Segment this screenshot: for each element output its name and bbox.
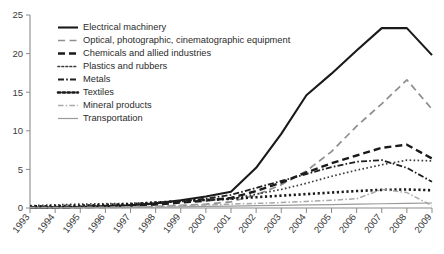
chart-canvas: 0510152025 19931994199519961997199819992… — [0, 0, 444, 254]
legend-item: Electrical machinery — [58, 22, 167, 32]
y-tick-label: 5 — [18, 164, 23, 175]
x-tick-label: 2000 — [186, 211, 208, 234]
x-tick-label: 2004 — [286, 211, 308, 234]
legend-label: Chemicals and allied industries — [83, 48, 212, 58]
x-tick-label: 2009 — [412, 211, 434, 234]
x-tick-label: 2007 — [362, 211, 384, 234]
legend-label: Optical, photographic, cinematographic e… — [83, 35, 291, 45]
x-tick-label: 2002 — [236, 211, 258, 234]
series-line-optical-photographic-cinematographic-equipment — [30, 80, 432, 208]
legend-item: Transportation — [58, 113, 143, 123]
x-axis: 1993199419951996199719981999200020012002… — [10, 208, 434, 235]
x-tick-label: 1996 — [85, 211, 107, 234]
legend-item: Textiles — [58, 87, 114, 97]
legend-item: Metals — [58, 74, 111, 84]
x-tick-label: 2008 — [387, 211, 409, 234]
legend-item: Plastics and rubbers — [58, 61, 168, 71]
legend-label: Plastics and rubbers — [83, 61, 168, 71]
y-axis: 0510152025 — [12, 9, 30, 213]
legend-label: Mineral products — [83, 100, 152, 110]
legend-item: Mineral products — [58, 100, 152, 110]
x-tick-label: 1993 — [10, 211, 32, 234]
x-tick-label: 2001 — [211, 211, 233, 234]
y-tick-label: 20 — [12, 48, 23, 59]
x-tick-label: 1995 — [60, 211, 82, 234]
x-tick-label: 1994 — [35, 211, 57, 234]
y-tick-label: 15 — [12, 87, 23, 98]
y-tick-label: 10 — [12, 125, 23, 136]
x-tick-label: 1999 — [161, 211, 183, 234]
series-line-plastics-and-rubbers — [30, 160, 432, 206]
legend-item: Optical, photographic, cinematographic e… — [58, 35, 291, 45]
y-tick-label: 25 — [12, 9, 23, 20]
x-tick-label: 1998 — [136, 211, 158, 234]
legend-label: Transportation — [83, 113, 143, 123]
line-chart: 0510152025 19931994199519961997199819992… — [0, 0, 444, 254]
chart-legend: Electrical machineryOptical, photographi… — [58, 22, 291, 123]
legend-label: Electrical machinery — [83, 22, 167, 32]
x-tick-label: 2003 — [261, 211, 283, 234]
legend-label: Metals — [83, 74, 111, 84]
x-tick-label: 2005 — [311, 211, 333, 234]
x-tick-label: 1997 — [110, 211, 132, 234]
x-tick-label: 2006 — [337, 211, 359, 234]
legend-item: Chemicals and allied industries — [58, 48, 212, 58]
legend-label: Textiles — [83, 87, 114, 97]
